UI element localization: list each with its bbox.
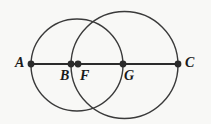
point-label-A: A [15,56,24,70]
point-label-F: F [80,69,89,83]
point-F [75,61,82,68]
point-A [28,61,35,68]
point-C [175,61,182,68]
point-B [68,61,75,68]
point-label-B: B [60,69,69,83]
figure-canvas [0,0,211,124]
point-G [120,61,127,68]
geometry-figure: A B F G C [0,0,211,124]
point-label-G: G [124,69,134,83]
point-label-C: C [185,56,194,70]
